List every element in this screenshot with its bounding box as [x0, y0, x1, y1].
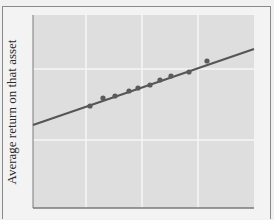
data-point: [168, 73, 173, 78]
data-point: [112, 93, 117, 98]
data-point: [135, 85, 140, 90]
data-point: [157, 77, 162, 82]
data-point: [186, 69, 191, 74]
scatter-chart: [0, 0, 274, 220]
data-point: [204, 58, 209, 63]
data-point: [87, 103, 92, 108]
y-axis-label: Average return on that asset: [4, 40, 20, 185]
data-point: [147, 82, 152, 87]
plot-area: [33, 15, 254, 208]
data-point: [126, 88, 131, 93]
data-point: [100, 95, 105, 100]
